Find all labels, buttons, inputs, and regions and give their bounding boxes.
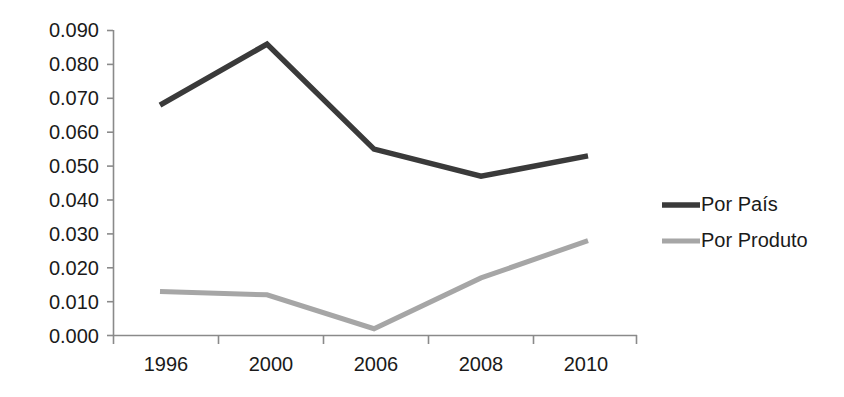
series-line-por-pais (160, 44, 588, 176)
series-line-por-produto (160, 241, 588, 329)
y-tick-label: 0.060 (49, 121, 99, 143)
chart-legend: Por País Por Produto (662, 193, 808, 251)
x-tick-label: 2008 (459, 353, 504, 375)
legend-label-por-produto: Por Produto (701, 229, 808, 251)
legend-item-por-pais: Por País (662, 193, 778, 215)
y-tick-label: 0.020 (49, 257, 99, 279)
x-axis-ticks (114, 335, 637, 344)
x-tick-label: 2000 (249, 353, 294, 375)
legend-label-por-pais: Por País (701, 193, 778, 215)
y-tick-label: 0.080 (49, 53, 99, 75)
y-tick-label: 0.030 (49, 223, 99, 245)
chart-container: 0.090 0.080 0.070 0.060 0.050 0.040 0.03… (0, 0, 844, 397)
line-chart: 0.090 0.080 0.070 0.060 0.050 0.040 0.03… (0, 0, 844, 397)
y-axis-ticks (107, 31, 113, 336)
legend-item-por-produto: Por Produto (662, 229, 808, 251)
x-axis-labels: 1996 2000 2006 2008 2010 (144, 353, 609, 375)
x-tick-label: 2010 (564, 353, 609, 375)
x-tick-label: 1996 (144, 353, 189, 375)
y-tick-label: 0.090 (49, 19, 99, 41)
y-tick-label: 0.070 (49, 87, 99, 109)
y-tick-label: 0.040 (49, 189, 99, 211)
y-tick-label: 0.000 (49, 325, 99, 347)
x-tick-label: 2006 (354, 353, 399, 375)
y-tick-label: 0.050 (49, 155, 99, 177)
y-tick-label: 0.010 (49, 291, 99, 313)
y-axis-labels: 0.090 0.080 0.070 0.060 0.050 0.040 0.03… (49, 19, 99, 347)
